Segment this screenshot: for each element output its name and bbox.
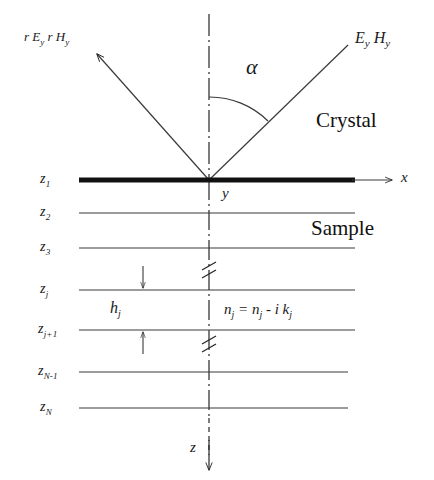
reflected-E-symbol: r E <box>24 29 40 44</box>
interface-label-zj1: zj+1 <box>38 322 57 339</box>
incident-E-symbol: E <box>355 29 365 46</box>
incident-H-symbol: H <box>374 29 386 46</box>
reflected-wave-label: r Ey r Hy <box>24 30 69 47</box>
region-label-crystal: Crystal <box>316 110 377 131</box>
refractive-index-formula: nj = nj - i kj <box>224 302 292 320</box>
diagram-canvas <box>0 0 434 480</box>
interface-label-zj: zj <box>40 282 48 299</box>
angle-arc <box>209 97 268 121</box>
optical-multilayer-diagram: r Ey r Hy Ey Hy α Crystal Sample x y z z… <box>0 0 434 480</box>
reflected-ray <box>97 54 209 180</box>
interface-label-zn: zN <box>40 400 52 417</box>
z-axis-label: z <box>190 440 196 455</box>
reflected-H-subscript: y <box>65 37 69 47</box>
interface-label-z2: z2 <box>40 205 50 222</box>
region-label-sample: Sample <box>311 218 374 239</box>
incident-wave-label: Ey Hy <box>355 30 390 49</box>
reflected-H-symbol: r H <box>48 29 66 44</box>
reflected-E-subscript: y <box>40 37 44 47</box>
layer-thickness-label: hj <box>110 300 121 319</box>
interface-label-z3: z3 <box>40 240 50 257</box>
interface-label-z1: z1 <box>40 172 50 189</box>
incidence-angle-label: α <box>246 56 258 78</box>
interface-label-zn1: zN-1 <box>38 364 58 381</box>
x-axis-label: x <box>401 170 408 185</box>
incident-H-subscript: y <box>385 37 390 49</box>
incident-E-subscript: y <box>365 37 370 49</box>
y-axis-label: y <box>222 186 229 201</box>
